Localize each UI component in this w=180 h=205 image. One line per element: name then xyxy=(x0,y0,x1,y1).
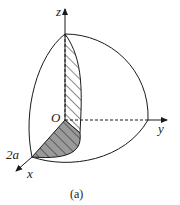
figure-caption: (a) xyxy=(70,187,83,201)
origin-label: O xyxy=(51,110,61,125)
radius-mark-label: 2a xyxy=(6,147,20,162)
hatched-region-vertical xyxy=(65,34,81,133)
z-axis-label: z xyxy=(55,4,61,19)
x-axis-label: x xyxy=(26,166,33,181)
y-axis-label: y xyxy=(156,121,164,136)
diagram-canvas: z y x O 2a (a) xyxy=(0,0,180,205)
